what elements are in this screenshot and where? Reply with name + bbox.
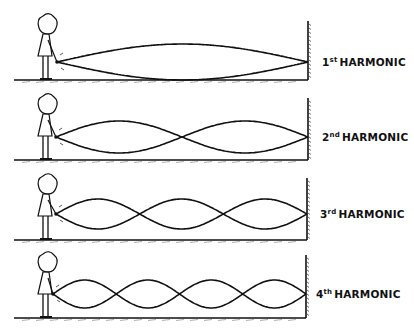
wall-hatch (309, 68, 311, 70)
harmonic-word: HARMONIC (334, 288, 400, 300)
ordinal-suffix: th (324, 288, 333, 296)
ground-hatch (36, 320, 44, 321)
person-hair-head (38, 14, 57, 34)
wall-hatch (309, 60, 311, 62)
ground-hatch (218, 320, 226, 321)
harmonics-diagram: 1stHARMONIC 2ndHARMONIC 3rdHARMONIC 4thH… (0, 0, 414, 336)
wall-hatch (308, 189, 310, 191)
motion-marks (56, 285, 60, 302)
ground-hatch (288, 162, 296, 163)
wall-hatch (307, 282, 309, 284)
ground-hatch (162, 162, 170, 163)
person-hand (54, 212, 58, 216)
wall-hatch (308, 233, 310, 235)
label-3rd-harmonic: 3rdHARMONIC (320, 208, 405, 220)
ground-hatch (148, 162, 156, 163)
wall-hatch (307, 270, 309, 272)
wall-hatch (309, 109, 311, 111)
ground-hatch (106, 242, 114, 243)
ground-hatch (134, 242, 142, 243)
ground-hatch (246, 242, 254, 243)
ground-hatch (22, 82, 30, 83)
ground-hatch (204, 320, 212, 321)
person-hand (54, 135, 58, 139)
ground-hatch (106, 82, 114, 83)
wall-hatch (307, 262, 309, 264)
ground-hatch (134, 320, 142, 321)
wall-hatch (309, 113, 311, 115)
wall-hatch (309, 141, 311, 143)
wave-lower-curve (57, 62, 308, 80)
wall-hatch (309, 28, 311, 30)
ground-hatch (120, 320, 128, 321)
wall-hatch (309, 36, 311, 38)
wall-hatch (309, 157, 311, 159)
wall-hatch (309, 129, 311, 131)
ground-hatch (274, 162, 282, 163)
ground-hatch (204, 82, 212, 83)
ground-hatch (162, 320, 170, 321)
ground-hatch (260, 242, 268, 243)
wall-hatch (309, 24, 311, 26)
person-hair-head (38, 94, 57, 114)
ground-hatch (50, 242, 58, 243)
motion-marks (59, 205, 63, 222)
ground-hatch (78, 162, 86, 163)
ground-hatch (232, 162, 240, 163)
wall-hatch (308, 197, 310, 199)
ground-hatch (92, 320, 100, 321)
ground-hatch (36, 162, 44, 163)
wall-hatch (309, 44, 311, 46)
wall-hatch (308, 181, 310, 183)
harmonic-number: 1 (322, 56, 330, 68)
wall-hatch (309, 64, 311, 66)
harmonic-number: 4 (316, 288, 324, 300)
ground-hatch (232, 320, 240, 321)
ground-hatch (288, 82, 296, 83)
harmonic-word: HARMONIC (339, 56, 405, 68)
motion-marks (59, 128, 63, 145)
ground-hatch (36, 242, 44, 243)
ground-hatch (260, 82, 268, 83)
wall-hatch (308, 221, 310, 223)
ground-hatch (204, 162, 212, 163)
wall-hatch (309, 105, 311, 107)
person-dress (38, 194, 52, 216)
ground-hatch (134, 82, 142, 83)
harmonic-number: 3 (320, 208, 328, 220)
ground-hatch (190, 82, 198, 83)
ground-hatch (148, 82, 156, 83)
ground-hatch (120, 242, 128, 243)
wave-lower-curve (56, 199, 307, 229)
person-hair-head (38, 174, 57, 194)
wall-hatch (308, 229, 310, 231)
ordinal-suffix: rd (328, 208, 337, 216)
wall-hatch (309, 125, 311, 127)
ground-hatch (92, 162, 100, 163)
wall-hatch (308, 209, 310, 211)
ground-hatch (260, 320, 268, 321)
ground-hatch (120, 162, 128, 163)
ground-hatch (246, 162, 254, 163)
ground-hatch (246, 320, 254, 321)
wall-hatch (307, 278, 309, 280)
ground-hatch (218, 82, 226, 83)
wall-hatch (307, 314, 309, 316)
person-hair-head (38, 252, 57, 272)
wall-hatch (308, 217, 310, 219)
ground-hatch (176, 162, 184, 163)
ground-hatch (134, 162, 142, 163)
wall-hatch (309, 145, 311, 147)
ground-hatch (274, 320, 282, 321)
wall-hatch (307, 258, 309, 260)
label-4th-harmonic: 4thHARMONIC (316, 288, 401, 300)
wall-hatch (308, 225, 310, 227)
wall-hatch (307, 298, 309, 300)
ground-hatch (218, 242, 226, 243)
ground-hatch (288, 320, 296, 321)
ground-hatch (106, 162, 114, 163)
wall-hatch (307, 294, 309, 296)
ordinal-suffix: nd (330, 131, 340, 139)
wave-upper-curve (57, 44, 308, 62)
ground-hatch (50, 162, 58, 163)
